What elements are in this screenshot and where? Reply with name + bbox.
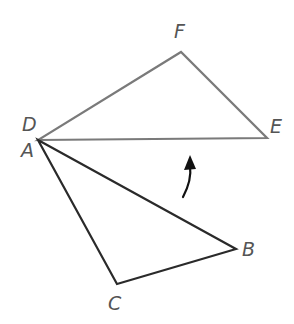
label-d: D xyxy=(22,115,37,134)
label-b: B xyxy=(242,240,255,259)
label-e: E xyxy=(270,117,282,136)
label-f: F xyxy=(174,22,185,41)
label-c: C xyxy=(108,294,121,313)
rotation-arrow-icon xyxy=(183,155,196,197)
rotation-diagram xyxy=(0,0,294,324)
triangle-abc xyxy=(38,140,236,284)
label-a: A xyxy=(21,141,34,160)
triangle-def xyxy=(38,52,267,140)
